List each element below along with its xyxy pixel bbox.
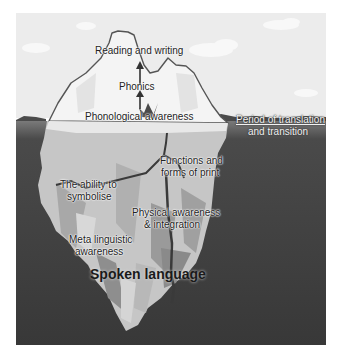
- label-meta-line1: Meta linguistic: [69, 234, 132, 246]
- label-phonics: Phonics: [119, 81, 155, 93]
- label-period-translation-line1: Period of translation: [236, 114, 325, 126]
- label-functions-line1: Functions and: [160, 155, 223, 167]
- label-functions-line2: forms of print: [161, 167, 219, 179]
- label-phonological-awareness: Phonological awareness: [85, 111, 193, 123]
- label-period-translation-line2: and transition: [248, 126, 308, 138]
- label-physical-line1: Physical awareness: [132, 207, 220, 219]
- label-symbolise-line2: symbolise: [67, 191, 111, 203]
- label-meta-line2: awareness: [75, 246, 123, 258]
- label-symbolise-line1: The ability to: [60, 179, 117, 191]
- label-reading-writing: Reading and writing: [95, 45, 183, 57]
- iceberg-diagram: Reading and writing Phonics Phonological…: [16, 13, 326, 345]
- label-spoken-language: Spoken language: [90, 266, 206, 282]
- label-physical-line2: & integration: [144, 219, 200, 231]
